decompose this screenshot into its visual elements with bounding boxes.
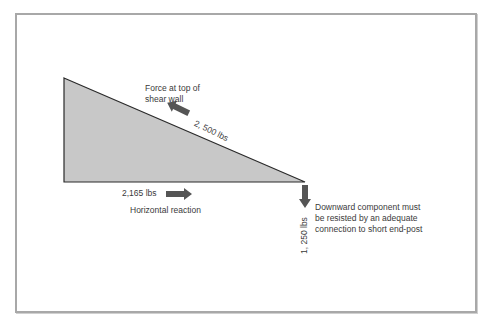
- horizontal-reaction-label: Horizontal reaction: [130, 205, 201, 216]
- downward-label-line2: be resisted by an adequate: [315, 213, 418, 224]
- force-diagram: [0, 0, 493, 326]
- downward-label-line1: Downward component must: [315, 202, 420, 213]
- horizontal-reaction-value: 2,165 lbs: [122, 188, 157, 199]
- downward-force-value: 1, 250 lbs: [299, 217, 310, 254]
- top-force-label-line1: Force at top of: [145, 83, 200, 94]
- downward-label-line3: connection to short end-post: [315, 224, 422, 235]
- downward-force-arrow-icon: [299, 185, 311, 208]
- top-force-label-line2: shear wall: [145, 94, 183, 105]
- horizontal-reaction-arrow-icon: [166, 188, 192, 200]
